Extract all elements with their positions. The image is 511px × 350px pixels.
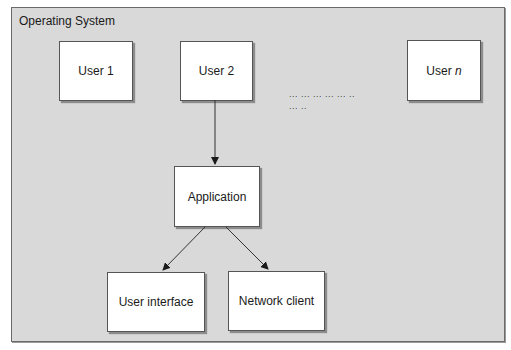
arrows-layer — [0, 0, 511, 350]
arrow-application-to-network-client — [226, 227, 268, 269]
arrow-application-to-user-interface — [163, 227, 205, 270]
